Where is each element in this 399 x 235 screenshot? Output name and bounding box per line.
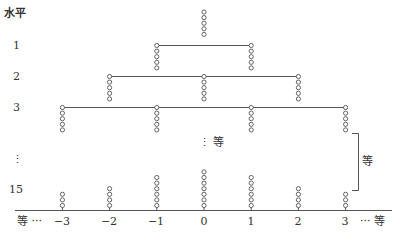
bead-icon xyxy=(249,128,253,132)
bead-icon xyxy=(249,43,253,47)
bead-icon xyxy=(296,86,300,90)
bead-icon xyxy=(155,49,159,53)
bead-icon xyxy=(202,203,206,207)
bead-icon xyxy=(344,111,348,115)
x-tick-1: 1 xyxy=(248,216,255,228)
bead-icon xyxy=(202,16,206,20)
bead-icon xyxy=(155,111,159,115)
bead-icon xyxy=(108,192,112,196)
bead-icon xyxy=(60,105,64,109)
bead-icon xyxy=(344,105,348,109)
bead-icon xyxy=(249,181,253,185)
bead-icon xyxy=(249,111,253,115)
bead-icon xyxy=(60,117,64,121)
bead-icon xyxy=(202,10,206,14)
x-axis-left-label: 等 ··· xyxy=(17,216,42,228)
bead-icon xyxy=(60,203,64,207)
bead-icon xyxy=(108,198,112,202)
bead-icon xyxy=(249,203,253,207)
x-tick-0: 0 xyxy=(201,216,208,228)
bead-icon xyxy=(296,203,300,207)
bead-icon xyxy=(344,122,348,126)
level-3-stack xyxy=(60,105,64,132)
random-walk-diagram: 水平 1 2 3 ⋮ 15 ⋮ 等 等 等 ··· ··· 等 −3 −2 −1… xyxy=(0,0,399,235)
bead-icon xyxy=(155,55,159,59)
bead-stacks xyxy=(60,10,347,208)
bead-icon xyxy=(344,117,348,121)
bead-icon xyxy=(249,49,253,53)
bead-icon xyxy=(202,198,206,202)
x-tick-neg2: −2 xyxy=(101,216,117,228)
bead-icon xyxy=(155,187,159,191)
level-label-15: 15 xyxy=(9,184,23,196)
bead-icon xyxy=(108,74,112,78)
x-tick-2: 2 xyxy=(295,216,302,228)
bead-icon xyxy=(249,175,253,179)
level-15-stack xyxy=(296,187,300,208)
bead-icon xyxy=(155,181,159,185)
level-15-stack xyxy=(202,170,206,208)
bead-icon xyxy=(249,60,253,64)
bead-icon xyxy=(108,187,112,191)
bead-icon xyxy=(344,128,348,132)
level-3-stack xyxy=(344,105,348,132)
bead-icon xyxy=(202,27,206,31)
bead-icon xyxy=(155,198,159,202)
bead-icon xyxy=(155,122,159,126)
level-3-stack xyxy=(249,105,253,132)
bead-icon xyxy=(249,66,253,70)
bead-icon xyxy=(249,192,253,196)
bead-icon xyxy=(60,111,64,115)
right-bracket xyxy=(352,134,359,191)
bead-icon xyxy=(249,55,253,59)
bead-icon xyxy=(249,105,253,109)
bead-icon xyxy=(296,198,300,202)
bead-icon xyxy=(202,74,206,78)
bead-icon xyxy=(202,97,206,101)
bead-icon xyxy=(202,32,206,36)
bead-icon xyxy=(202,86,206,90)
bead-icon xyxy=(202,192,206,196)
x-axis-right-label: ··· 等 xyxy=(360,216,385,228)
level-3-stack xyxy=(155,105,159,132)
level-15-stack xyxy=(249,175,253,207)
level-15-stack xyxy=(155,175,159,207)
bead-icon xyxy=(155,66,159,70)
level-label-3: 3 xyxy=(13,102,20,114)
level-label-2: 2 xyxy=(13,71,20,83)
connector-lines xyxy=(62,46,345,211)
x-tick-neg1: −1 xyxy=(148,216,164,228)
bead-icon xyxy=(108,203,112,207)
bead-icon xyxy=(155,203,159,207)
level-15-stack xyxy=(108,187,112,208)
level-2-stack xyxy=(296,74,300,101)
bead-icon xyxy=(60,128,64,132)
level-label-ellipsis: ⋮ xyxy=(12,154,23,166)
bead-icon xyxy=(296,91,300,95)
bead-icon xyxy=(296,192,300,196)
bead-icon xyxy=(155,105,159,109)
bead-icon xyxy=(344,198,348,202)
bead-icon xyxy=(202,181,206,185)
bead-icon xyxy=(155,128,159,132)
bead-icon xyxy=(249,117,253,121)
bead-icon xyxy=(108,97,112,101)
bead-icon xyxy=(249,122,253,126)
x-tick-3: 3 xyxy=(342,216,349,228)
level-1-stack xyxy=(249,43,253,70)
level-2-stack xyxy=(108,74,112,101)
middle-ellipsis-label: ⋮ 等 xyxy=(199,137,225,149)
bead-icon xyxy=(249,198,253,202)
bead-icon xyxy=(202,91,206,95)
bead-icon xyxy=(296,97,300,101)
bead-icon xyxy=(202,175,206,179)
bead-icon xyxy=(202,21,206,25)
bead-icon xyxy=(155,117,159,121)
bead-icon xyxy=(60,122,64,126)
level-15-stack xyxy=(60,192,64,207)
bead-icon xyxy=(202,170,206,174)
bead-icon xyxy=(296,74,300,78)
level-label-1: 1 xyxy=(13,40,20,52)
level-1-stack xyxy=(155,43,159,70)
level-2-stack xyxy=(202,74,206,101)
